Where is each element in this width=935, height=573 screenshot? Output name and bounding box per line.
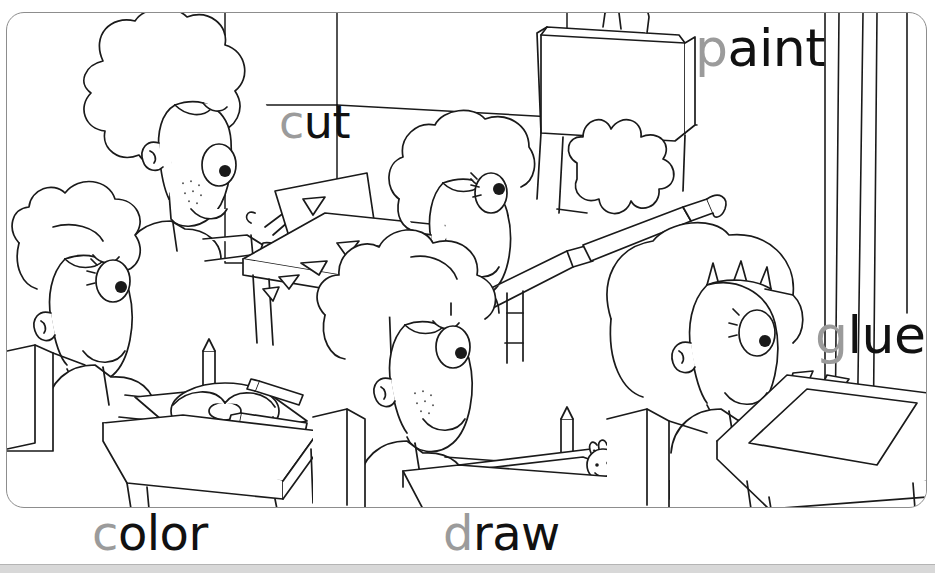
word-glue-trace-letter: g: [815, 305, 848, 365]
word-color-trace-letter: c: [92, 505, 118, 561]
classroom-line-art: [7, 13, 927, 508]
worksheet-page: paint cut glue color draw: [0, 0, 935, 573]
word-glue: glue: [815, 309, 925, 361]
word-draw-rest: raw: [473, 505, 560, 561]
word-paint-trace-letter: p: [695, 18, 728, 78]
word-color-rest: olor: [118, 505, 208, 561]
word-cut-trace-letter: c: [279, 95, 304, 149]
table-color: [103, 415, 319, 508]
word-draw-trace-letter: d: [443, 505, 473, 561]
illustration-frame: paint cut glue: [6, 12, 927, 508]
page-bottom-band: [0, 564, 935, 573]
word-cut: cut: [279, 99, 350, 145]
word-paint-rest: aint: [728, 18, 826, 78]
chair-draw: [313, 409, 365, 508]
word-draw: draw: [443, 509, 560, 557]
word-paint: paint: [695, 22, 825, 74]
word-glue-rest: lue: [848, 305, 926, 365]
word-cut-rest: ut: [304, 95, 350, 149]
word-color: color: [92, 509, 208, 557]
